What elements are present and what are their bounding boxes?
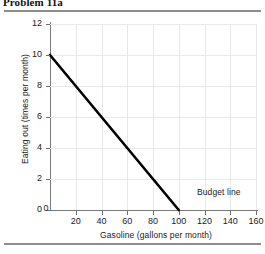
x-tick-label: 100	[166, 216, 192, 226]
y-tick-mark	[46, 24, 50, 25]
x-tick-label: 80	[140, 216, 166, 226]
gridline-vertical	[256, 24, 257, 210]
x-tick-label: 160	[243, 216, 265, 226]
y-tick-mark	[46, 55, 50, 56]
x-tick-mark	[76, 211, 77, 215]
y-tick-mark	[46, 148, 50, 149]
budget-line-annotation: Budget line	[197, 187, 241, 197]
x-tick-mark	[179, 211, 180, 215]
y-tick-mark	[46, 179, 50, 180]
x-tick-mark	[102, 211, 103, 215]
plot-area: Budget line	[50, 24, 256, 210]
y-tick-label: 12	[18, 18, 42, 28]
bottom-rule	[4, 243, 261, 245]
x-tick-mark	[153, 211, 154, 215]
x-tick-label: 20	[63, 216, 89, 226]
y-tick-mark	[46, 86, 50, 87]
x-tick-mark	[205, 211, 206, 215]
x-axis-title: Gasoline (gallons per month)	[50, 230, 262, 240]
y-tick-mark	[46, 117, 50, 118]
top-rule	[4, 10, 261, 12]
x-tick-mark	[127, 211, 128, 215]
x-tick-label: 40	[89, 216, 115, 226]
figure: Problem 11a Eating out (times per month)…	[0, 0, 265, 254]
y-tick-label: 2	[18, 173, 42, 183]
y-tick-label: 4	[18, 142, 42, 152]
x-tick-mark	[256, 211, 257, 215]
x-tick-label: 0	[33, 203, 59, 213]
x-tick-label: 60	[114, 216, 140, 226]
y-tick-label: 10	[18, 49, 42, 59]
x-axis-line	[50, 210, 258, 211]
y-tick-label: 8	[18, 80, 42, 90]
budget-line	[50, 24, 256, 210]
figure-title: Problem 11a	[3, 0, 63, 8]
x-tick-label: 140	[217, 216, 243, 226]
x-tick-label: 120	[192, 216, 218, 226]
x-tick-mark	[230, 211, 231, 215]
y-tick-label: 6	[18, 111, 42, 121]
